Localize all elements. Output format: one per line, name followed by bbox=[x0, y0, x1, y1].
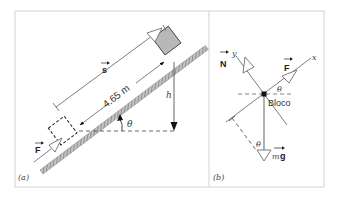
normal-force-label: N bbox=[220, 50, 229, 69]
force-label-a: F bbox=[35, 141, 44, 155]
force-label-b: F bbox=[284, 57, 293, 73]
x-axis-label: x bbox=[312, 53, 317, 62]
svg-text:F: F bbox=[35, 145, 41, 155]
angle-theta-label-a: θ bbox=[127, 119, 133, 129]
block-point bbox=[262, 92, 267, 97]
x-axis-line bbox=[226, 58, 311, 122]
initial-block-dashed bbox=[48, 116, 77, 145]
svg-text:N: N bbox=[220, 59, 227, 69]
block-label: Bloco bbox=[268, 98, 291, 108]
panel-b-label: (b) bbox=[213, 173, 224, 182]
y-axis-label: y bbox=[231, 49, 237, 58]
height-label: h bbox=[166, 90, 172, 100]
weight-label: m g bbox=[272, 146, 286, 161]
weight-arrowhead bbox=[257, 150, 271, 161]
panel-b-free-body-diagram: y x N F m g bbox=[213, 49, 317, 182]
physics-figure: h θ s 4.65 m bbox=[0, 0, 337, 199]
panel-a-label: (a) bbox=[18, 173, 29, 182]
svg-text:g: g bbox=[280, 151, 286, 161]
svg-text:F: F bbox=[284, 63, 290, 73]
incline-ramp bbox=[40, 45, 208, 174]
svg-text:m: m bbox=[272, 152, 280, 161]
weight-component-guide bbox=[229, 116, 256, 150]
normal-force-arrowhead bbox=[243, 57, 254, 73]
angle-theta-label-top: θ bbox=[277, 85, 282, 94]
angle-theta-label-bottom: θ bbox=[256, 140, 261, 149]
svg-text:s: s bbox=[102, 65, 107, 75]
panel-a-incline: h θ s 4.65 m bbox=[18, 25, 208, 182]
